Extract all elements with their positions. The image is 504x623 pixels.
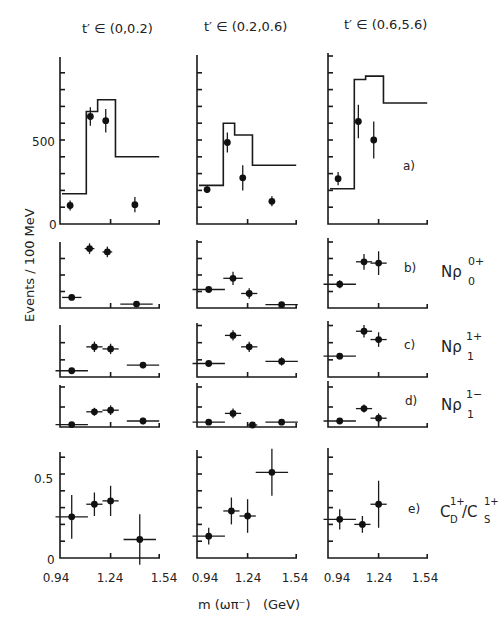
data-point — [68, 513, 75, 520]
panel-d-col1 — [56, 385, 160, 428]
panel-b-col1 — [60, 242, 159, 308]
data-point — [87, 113, 94, 120]
column-title-3: t′ ∈ (0.6,5.6) — [344, 17, 427, 32]
data-point — [136, 536, 143, 543]
svg-text:1.54: 1.54 — [412, 571, 439, 585]
svg-text:1: 1 — [467, 408, 474, 421]
svg-text:1.24: 1.24 — [366, 571, 393, 585]
panel-d-col2 — [193, 383, 298, 428]
svg-text:1−: 1− — [466, 388, 482, 401]
axis-lines — [60, 57, 159, 224]
data-point — [205, 286, 212, 293]
svg-text:1+: 1+ — [484, 496, 499, 507]
svg-text:1.24: 1.24 — [97, 571, 124, 585]
monte-carlo-histogram — [199, 123, 296, 185]
data-point — [204, 186, 211, 193]
data-point — [278, 358, 285, 365]
data-point — [205, 533, 212, 540]
axis-lines — [328, 53, 427, 224]
data-point — [67, 202, 74, 209]
panel-c-col2 — [193, 323, 298, 377]
svg-text:S: S — [484, 514, 490, 525]
panel-a-col1 — [60, 57, 159, 224]
data-point — [230, 332, 237, 339]
data-point — [107, 407, 114, 414]
data-point — [107, 497, 114, 504]
axis-lines — [60, 452, 159, 558]
data-point — [269, 198, 276, 205]
svg-text:0.94: 0.94 — [192, 571, 219, 585]
y-tick-e-0.5: 0.5 — [34, 472, 53, 486]
panel-e-col2 — [193, 449, 297, 558]
data-point — [86, 245, 93, 252]
monte-carlo-histogram — [62, 100, 159, 194]
data-point — [361, 258, 368, 265]
svg-text:/C: /C — [462, 503, 478, 521]
data-point — [140, 418, 147, 425]
data-point — [230, 275, 237, 282]
panel-label-d: d) — [405, 394, 417, 408]
axis-lines — [197, 240, 296, 308]
data-point — [104, 249, 111, 256]
row-label-d: Nρ 1− 1 — [441, 388, 482, 421]
data-point — [246, 290, 253, 297]
panel-label-c: c) — [404, 338, 415, 352]
svg-text:Nρ: Nρ — [441, 396, 462, 414]
panel-e-col1 — [56, 452, 160, 565]
column-title-2: t′ ∈ (0.2,0.6) — [204, 19, 287, 34]
plot-panels — [56, 53, 428, 565]
data-point — [91, 501, 98, 508]
data-point — [335, 175, 342, 182]
data-point — [228, 508, 235, 515]
data-point — [278, 419, 285, 426]
y-tick-e-0: 0 — [47, 553, 55, 567]
data-point — [224, 139, 231, 146]
data-point — [336, 353, 343, 360]
data-point — [132, 201, 139, 208]
svg-text:1+: 1+ — [466, 330, 482, 343]
axis-lines — [197, 323, 296, 377]
data-point — [375, 415, 382, 422]
row-label-c: Nρ 1+ 1 — [441, 330, 482, 363]
axis-lines — [197, 55, 296, 224]
figure-canvas: t′ ∈ (0,0.2) t′ ∈ (0.2,0.6) t′ ∈ (0.6,5.… — [0, 0, 504, 623]
data-point — [361, 328, 368, 335]
panel-c-col1 — [56, 325, 160, 377]
data-point — [107, 346, 114, 353]
data-point — [375, 336, 382, 343]
axis-lines — [197, 450, 296, 558]
data-point — [246, 343, 253, 350]
data-point — [68, 294, 75, 301]
data-point — [140, 362, 147, 369]
svg-text:0+: 0+ — [468, 255, 484, 268]
data-point — [278, 301, 285, 308]
svg-text:1.54: 1.54 — [282, 571, 309, 585]
svg-text:1.54: 1.54 — [151, 571, 178, 585]
svg-text:1.24: 1.24 — [235, 571, 262, 585]
data-point — [205, 419, 212, 426]
svg-text:C: C — [440, 503, 450, 521]
data-point — [68, 367, 75, 374]
svg-text:0.94: 0.94 — [43, 571, 70, 585]
data-point — [91, 408, 98, 415]
x-axis-label: m (ωπ⁻) (GeV) — [198, 597, 300, 612]
data-point — [205, 360, 212, 367]
data-point — [375, 501, 382, 508]
data-point — [375, 260, 382, 267]
data-point — [355, 118, 362, 125]
row-label-e: C 1+ D /C 1+ S — [440, 496, 499, 525]
data-point — [102, 117, 109, 124]
panel-label-a: a) — [403, 159, 415, 173]
data-point — [68, 421, 75, 428]
x-tick-labels: 0.94 1.24 1.54 0.94 1.24 1.54 0.94 1.24 … — [43, 571, 439, 585]
data-point — [359, 521, 366, 528]
data-point — [244, 513, 251, 520]
svg-text:1: 1 — [467, 350, 474, 363]
panel-label-b: b) — [404, 261, 416, 275]
svg-text:Nρ: Nρ — [441, 263, 462, 281]
y-tick-a-500: 500 — [32, 135, 55, 149]
data-point — [269, 469, 276, 476]
row-label-b: Nρ 0+ 0 — [441, 255, 484, 288]
data-point — [370, 137, 377, 144]
y-tick-a-0: 0 — [49, 218, 57, 232]
